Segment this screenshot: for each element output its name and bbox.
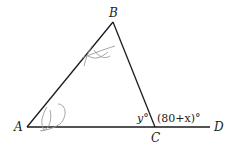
segment-ab: [27, 22, 113, 127]
angle-y-label: y°: [136, 112, 149, 125]
triangle-diagram: A B C D y° (80+x)°: [0, 0, 236, 148]
label-a: A: [13, 120, 23, 134]
angle-exterior-label: (80+x)°: [157, 112, 201, 125]
scribble-ab: [82, 46, 115, 66]
label-d: D: [213, 120, 224, 134]
label-b: B: [108, 6, 118, 20]
label-c: C: [151, 131, 160, 145]
